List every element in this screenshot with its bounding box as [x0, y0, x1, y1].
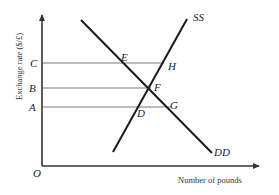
supply-curve-label: SS	[193, 11, 205, 23]
demand-curve-label: DD	[213, 146, 230, 158]
point-label-d: D	[136, 107, 145, 119]
level-label-b: B	[29, 82, 36, 94]
y-axis-label: Exchange rate ($/£)	[14, 33, 24, 100]
x-axis-label: Number of pounds	[178, 175, 242, 185]
exchange-rate-diagram: SS DD C B A E H F G D O Number of pounds…	[0, 0, 279, 195]
point-label-e: E	[120, 51, 128, 63]
point-label-f: F	[153, 81, 161, 93]
point-label-h: H	[167, 60, 177, 72]
supply-curve	[113, 19, 187, 152]
level-label-a: A	[28, 101, 36, 113]
level-label-c: C	[30, 57, 38, 69]
point-label-g: G	[170, 99, 178, 111]
demand-curve	[81, 20, 212, 153]
origin-label: O	[33, 167, 41, 179]
